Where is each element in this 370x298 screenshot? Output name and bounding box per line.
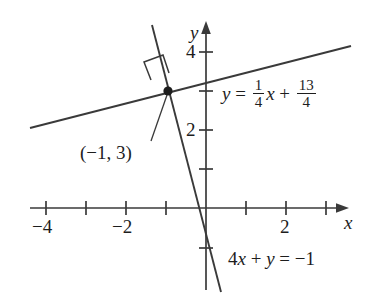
equation-shallow-constant-numerator: 13 — [297, 78, 316, 94]
equation-label-steep-line: 4x + y = −1 — [228, 248, 315, 270]
y-tick-label-2: 2 — [186, 119, 196, 141]
intersection-point-dot — [163, 86, 172, 95]
point-label-minus-one-three: (−1, 3) — [80, 142, 132, 164]
equation-shallow-constant-fraction: 13 4 — [297, 78, 316, 110]
x-tick-label--2: −2 — [112, 216, 132, 238]
equation-shallow-variable: x — [266, 83, 274, 104]
line-steep-four-x-plus-y-equals-minus-one — [152, 25, 221, 292]
x-axis-label: x — [344, 212, 352, 234]
equation-shallow-plus: + — [279, 83, 290, 104]
equation-steep-variable-x: x — [238, 248, 246, 269]
equation-steep-coefficient: 4 — [228, 248, 238, 269]
equation-shallow-equals: = — [235, 83, 246, 104]
equation-steep-equals: = — [279, 248, 290, 269]
equation-steep-variable-y: y — [266, 248, 274, 269]
equation-label-shallow-line: y = 1 4 x + 13 4 — [222, 79, 318, 111]
x-tick-label-2: 2 — [280, 216, 290, 238]
equation-steep-rhs: −1 — [295, 248, 315, 269]
equation-steep-plus: + — [251, 248, 262, 269]
y-tick-label-4: 4 — [186, 41, 196, 63]
point-label-leader-line — [151, 95, 167, 141]
equation-shallow-coefficient-numerator: 1 — [253, 78, 265, 94]
equation-shallow-lhs: y — [222, 83, 230, 104]
equation-shallow-coefficient-fraction: 1 4 — [253, 78, 265, 110]
equation-shallow-constant-denominator: 4 — [297, 94, 316, 110]
x-tick-label--4: −4 — [32, 216, 52, 238]
y-axis-arrow-icon — [201, 21, 211, 34]
equation-shallow-coefficient-denominator: 4 — [253, 94, 265, 110]
